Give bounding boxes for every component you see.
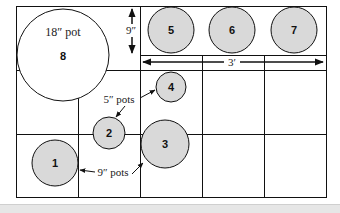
pot-3: 3 xyxy=(141,120,189,168)
pot-8: 18″ pot 8 xyxy=(17,9,109,101)
row-width-label: 3′ xyxy=(228,56,236,68)
svg-text:8: 8 xyxy=(60,50,66,62)
svg-text:1: 1 xyxy=(52,157,58,169)
pot-7: 7 xyxy=(271,7,317,53)
svg-text:2: 2 xyxy=(106,127,112,139)
small-pots-label: 5″ pots xyxy=(103,93,134,105)
garden-pot-layout-diagram: 9″ 3′ 18″ pot 8 5 6 7 4 xyxy=(0,0,340,213)
row-height-label: 9″ xyxy=(126,24,136,36)
svg-text:6: 6 xyxy=(229,24,235,36)
pot-2: 2 xyxy=(93,117,125,149)
svg-text:3: 3 xyxy=(162,138,168,150)
svg-text:4: 4 xyxy=(168,81,175,93)
svg-text:7: 7 xyxy=(291,24,297,36)
svg-text:5: 5 xyxy=(168,24,174,36)
row-height-dimension: 9″ xyxy=(124,9,138,53)
big-pot-label: 18″ pot xyxy=(45,25,81,39)
pot-6: 6 xyxy=(209,7,255,53)
pot-4: 4 xyxy=(156,72,186,102)
pot-5: 5 xyxy=(148,7,194,53)
row-width-dimension: 3′ xyxy=(143,56,323,68)
layout-svg: 9″ 3′ 18″ pot 8 5 6 7 4 xyxy=(0,0,340,213)
small-pots-callout: 5″ pots xyxy=(103,90,155,117)
pot-1: 1 xyxy=(32,140,78,186)
medium-pots-label: 9″ pots xyxy=(97,166,128,178)
medium-pots-callout: 9″ pots xyxy=(80,163,143,178)
page-bottom-edge xyxy=(0,204,340,213)
